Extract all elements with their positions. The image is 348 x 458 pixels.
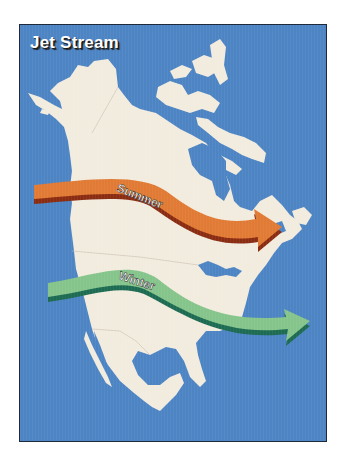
north-america-map: Summer Winter: [20, 25, 327, 442]
map-frame: Summer Winter Jet Stream: [19, 24, 327, 442]
map-title: Jet Stream: [30, 33, 119, 53]
